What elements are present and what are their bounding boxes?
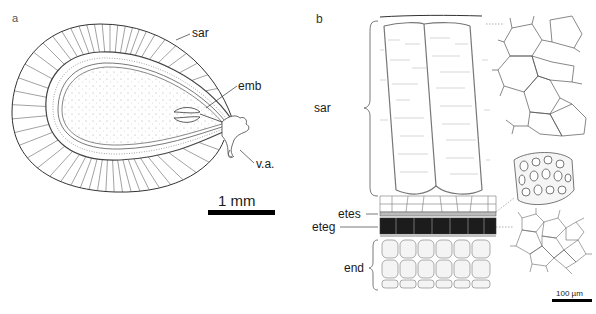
label-etes: etes <box>338 208 361 220</box>
scale-bar-a <box>208 210 275 215</box>
eteg-surface-view <box>510 208 592 274</box>
label-va: v.a. <box>256 158 274 170</box>
sar-brace <box>364 21 378 196</box>
sarcotesta-cells <box>384 23 482 194</box>
panel-b-seed-coat-detail: b <box>300 0 596 314</box>
scale-bar-a-label: 1 mm <box>218 192 256 209</box>
scale-bar-b <box>552 299 592 302</box>
endosperm-cells <box>382 240 490 288</box>
label-end: end <box>344 262 364 274</box>
panel-a-seed-section: a <box>0 0 300 314</box>
etes-layer <box>380 212 496 216</box>
sarcotesta-surface-view <box>492 16 586 136</box>
seed-section-drawing <box>0 0 300 314</box>
etes-surface-view <box>514 153 574 205</box>
vascular-appendage <box>222 116 249 158</box>
scale-bar-b-label: 100 µm <box>556 289 583 298</box>
label-sar-b: sar <box>314 102 331 114</box>
inner-sarcotesta-cells <box>380 196 496 212</box>
end-brace <box>369 240 378 290</box>
eteg-layer <box>380 218 496 234</box>
label-emb: emb <box>238 80 261 92</box>
label-sar-a: sar <box>192 27 209 39</box>
label-eteg: eteg <box>312 221 335 233</box>
